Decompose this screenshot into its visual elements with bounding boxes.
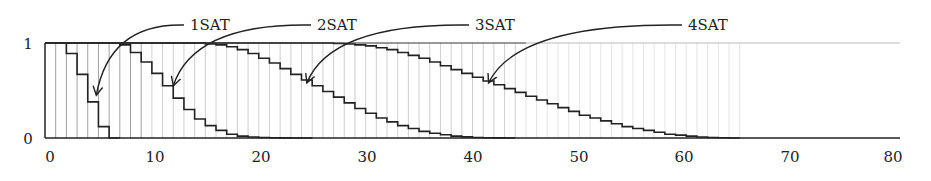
label-3sat: 3SAT: [475, 16, 515, 34]
annotation-arrows: [93, 25, 682, 95]
x-tick-label-40: 40: [463, 148, 482, 166]
step-probability-chart: 1 0 0 10 20 30 40 50 60 70 80 1SAT 2SAT …: [0, 0, 931, 181]
x-tick-label-0: 0: [45, 148, 55, 166]
label-4sat: 4SAT: [688, 16, 728, 34]
step-series-group: [45, 43, 740, 138]
arrow-4sat: [489, 25, 682, 83]
series-1sat: [45, 43, 120, 138]
label-1sat: 1SAT: [190, 16, 230, 34]
x-tick-label-70: 70: [780, 148, 799, 166]
series-4sat: [45, 43, 740, 138]
arrowhead-icon: [306, 73, 315, 83]
x-tick-label-60: 60: [674, 148, 693, 166]
x-tick-label-10: 10: [145, 148, 164, 166]
y-tick-label-0: 0: [23, 130, 33, 148]
x-tick-label-30: 30: [357, 148, 376, 166]
y-tick-label-1: 1: [23, 35, 33, 53]
x-tick-label-80: 80: [883, 148, 902, 166]
label-2sat: 2SAT: [317, 16, 357, 34]
tick-labels: 1 0 0 10 20 30 40 50 60 70 80: [23, 35, 902, 166]
series-2sat: [45, 43, 312, 138]
x-tick-label-50: 50: [569, 148, 588, 166]
x-tick-label-20: 20: [251, 148, 270, 166]
